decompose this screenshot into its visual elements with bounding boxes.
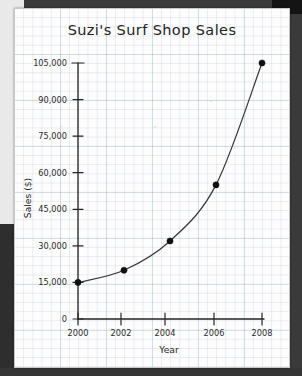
sales-trend-line	[78, 63, 262, 282]
data-point-2008	[259, 60, 265, 66]
sales-data-points	[75, 60, 265, 286]
y-tick-label-90000: 90,000	[38, 95, 67, 105]
x-tick-label-2000: 2000	[68, 328, 89, 338]
y-tick-label-15000: 15,000	[38, 277, 67, 287]
data-point-2004	[167, 238, 173, 244]
x-tick-label-2002: 2002	[111, 328, 132, 338]
x-axis-title: Year	[158, 344, 179, 355]
data-point-2006	[213, 182, 219, 188]
y-tick-label-45000: 45,000	[38, 204, 67, 214]
x-tick-label-2006: 2006	[204, 328, 225, 338]
data-point-2002	[121, 267, 127, 273]
backdrop-dark-band-bottom	[0, 368, 302, 376]
chart-plot-area: 105,000 90,000 75,000 60,000 45,000 30,0…	[14, 8, 290, 368]
y-tick-label-75000: 75,000	[38, 131, 67, 141]
graph-paper-sheet: Suzi's Surf Shop Sales 105,000 90,000 75…	[14, 8, 290, 368]
y-tick-label-105000: 105,000	[33, 58, 67, 68]
screenshot-stage: Suzi's Surf Shop Sales 105,000 90,000 75…	[0, 0, 302, 376]
x-tick-label-2008: 2008	[252, 328, 273, 338]
y-tick-label-30000: 30,000	[38, 241, 67, 251]
y-tick-label-0: 0	[62, 314, 67, 324]
y-axis-title: Sales ($)	[22, 178, 33, 218]
x-tick-label-2004: 2004	[155, 328, 176, 338]
y-tick-label-60000: 60,000	[38, 168, 67, 178]
data-point-2000	[75, 279, 81, 285]
